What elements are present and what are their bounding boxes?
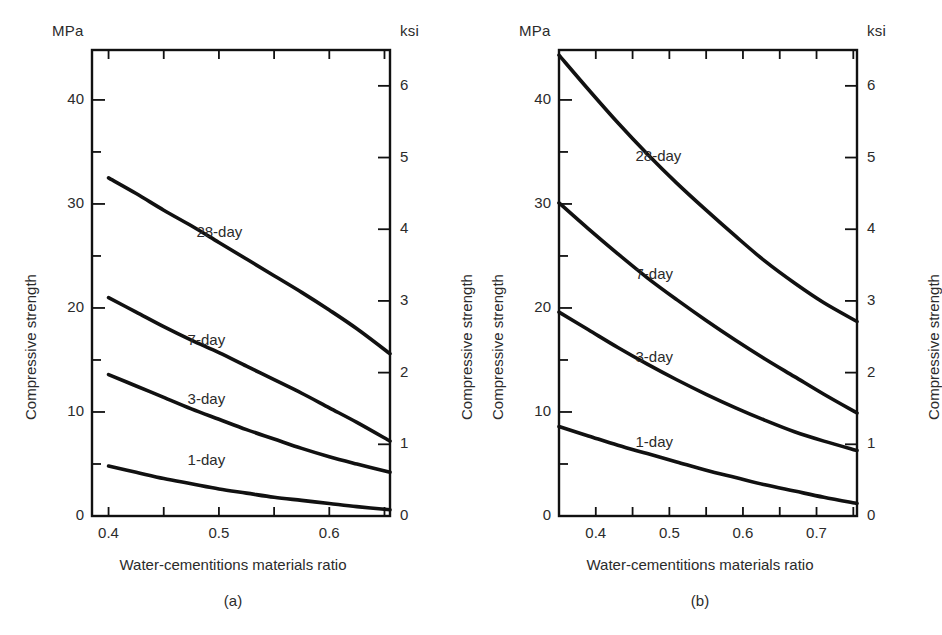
y-tick-label-right: 0: [867, 506, 897, 523]
series-label-1-day: 1-day: [635, 433, 673, 450]
series-curve-3-day: [109, 375, 390, 473]
x-axis-title: Water-cementitions materials ratio: [467, 556, 933, 573]
y-tick-label-left: 40: [509, 90, 551, 107]
series-label-3-day: 3-day: [635, 348, 673, 365]
y-tick-label-left: 0: [42, 506, 84, 523]
series-curve-3-day: [559, 312, 857, 450]
x-tick-label: 0.5: [195, 524, 243, 541]
series-label-1-day: 1-day: [188, 451, 226, 468]
series-label-7-day: 7-day: [635, 265, 673, 282]
x-tick-label: 0.4: [85, 524, 133, 541]
x-axis-title: Water-cementitions materials ratio: [0, 556, 466, 573]
y-axis-title-right: Compressive strength: [458, 274, 475, 420]
series-label-28-day: 28-day: [196, 223, 242, 240]
y-tick-label-right: 2: [400, 363, 430, 380]
y-tick-label-left: 10: [509, 402, 551, 419]
x-tick-label: 0.6: [305, 524, 353, 541]
y-tick-label-left: 30: [509, 194, 551, 211]
y-tick-label-right: 4: [400, 219, 430, 236]
series-curve-28-day: [109, 178, 390, 354]
y-tick-label-left: 10: [42, 402, 84, 419]
series-curve-1-day: [109, 466, 390, 510]
y-tick-label-right: 3: [867, 291, 897, 308]
panel-caption-b: (b): [467, 592, 933, 609]
x-tick-label: 0.5: [645, 524, 693, 541]
x-tick-label: 0.6: [719, 524, 767, 541]
y-tick-label-right: 2: [867, 363, 897, 380]
series-label-3-day: 3-day: [188, 390, 226, 407]
y-tick-label-right: 5: [867, 148, 897, 165]
y-tick-label-left: 0: [509, 506, 551, 523]
y-tick-label-left: 20: [42, 298, 84, 315]
series-label-7-day: 7-day: [188, 331, 226, 348]
y-tick-label-right: 1: [867, 434, 897, 451]
y-tick-label-right: 4: [867, 219, 897, 236]
series-curve-7-day: [109, 298, 390, 442]
y-tick-label-left: 30: [42, 194, 84, 211]
y-tick-label-right: 1: [400, 434, 430, 451]
series-curve-7-day: [559, 203, 857, 413]
y-tick-label-right: 6: [867, 76, 897, 93]
chart-panel-b: MPa ksi Compressive strength Water-cemen…: [467, 0, 933, 635]
y-tick-label-right: 0: [400, 506, 430, 523]
y-tick-label-right: 5: [400, 148, 430, 165]
chart-panel-a: MPa ksi Compressive strength Water-cemen…: [0, 0, 466, 635]
y-tick-label-left: 40: [42, 90, 84, 107]
y-tick-label-left: 20: [509, 298, 551, 315]
panel-caption-a: (a): [0, 592, 466, 609]
series-label-28-day: 28-day: [635, 147, 681, 164]
x-tick-label: 0.7: [793, 524, 841, 541]
series-curve-28-day: [559, 55, 857, 321]
y-axis-title-right: Compressive strength: [925, 274, 942, 420]
y-tick-label-right: 6: [400, 76, 430, 93]
x-tick-label: 0.4: [572, 524, 620, 541]
y-tick-label-right: 3: [400, 291, 430, 308]
